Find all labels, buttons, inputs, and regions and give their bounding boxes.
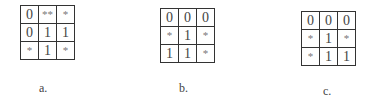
grid-row: 0 0 0 [302, 12, 356, 30]
grid-cell: 0 [161, 9, 179, 27]
grid-cell: 1 [57, 24, 75, 42]
grid-row: * 1 1 [302, 48, 356, 66]
grid-row: 0 0 0 [161, 9, 215, 27]
figure-label-a: a. [39, 82, 47, 94]
grid-cell: * [57, 6, 75, 24]
grid-row: 1 1 * [161, 45, 215, 63]
grid-cell: * [197, 27, 215, 45]
grid-row: * 1 * [302, 30, 356, 48]
grid-cell: * [21, 42, 39, 60]
grid-cell: * [161, 27, 179, 45]
grid-cell: ** [39, 6, 57, 24]
grid-cell: * [338, 30, 356, 48]
grid-cell: 0 [21, 24, 39, 42]
grid-cell: 1 [320, 30, 338, 48]
grid-row: * 1 * [21, 42, 75, 60]
grid-cell: 0 [320, 12, 338, 30]
grid-cell: 0 [179, 9, 197, 27]
grid-cell: 0 [21, 6, 39, 24]
figure-label-c: c. [323, 85, 331, 97]
grid-cell: 1 [161, 45, 179, 63]
grid-cell: 1 [39, 24, 57, 42]
grid-cell: 1 [179, 45, 197, 63]
grid-a: 0 ** * 0 1 1 * 1 * [20, 5, 75, 60]
grid-cell: * [302, 48, 320, 66]
grid-cell: * [57, 42, 75, 60]
grid-cell: * [197, 45, 215, 63]
grid-cell: 1 [338, 48, 356, 66]
grid-cell: 1 [39, 42, 57, 60]
grid-row: 0 ** * [21, 6, 75, 24]
grid-row: * 1 * [161, 27, 215, 45]
grid-cell: 1 [320, 48, 338, 66]
grid-cell: 1 [179, 27, 197, 45]
grid-c: 0 0 0 * 1 * * 1 1 [301, 11, 356, 66]
grid-row: 0 1 1 [21, 24, 75, 42]
grid-cell: 0 [338, 12, 356, 30]
figure-label-b: b. [179, 82, 188, 94]
grid-cell: 0 [197, 9, 215, 27]
grid-cell: 0 [302, 12, 320, 30]
grid-b: 0 0 0 * 1 * 1 1 * [160, 8, 215, 63]
grid-cell: * [302, 30, 320, 48]
